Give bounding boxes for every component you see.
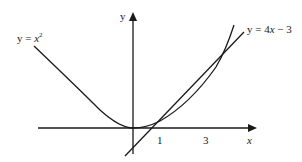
line-label-suffix: − 3 [275,23,292,35]
parabola-label-exponent: 2 [39,31,43,39]
graph-figure: y x 1 3 y = x2 y = 4x − 3 [0,0,302,162]
line-label: y = 4x − 3 [247,24,292,35]
x-tick-3-text: 3 [203,134,209,146]
x-tick-3: 3 [203,135,209,146]
x-axis-label-text: x [247,134,252,146]
line-label-prefix: y = 4 [247,23,270,35]
parabola-label-prefix: y = [17,32,34,44]
x-tick-1: 1 [157,135,163,146]
x-axis-label: x [247,135,252,146]
y-axis-label-text: y [120,10,126,22]
parabola-label: y = x2 [17,33,43,44]
y-axis-label: y [120,11,126,22]
x-tick-1-text: 1 [157,134,163,146]
x-axis-arrow-icon [248,124,257,132]
parabola-curve [34,25,234,128]
y-axis-arrow-icon [129,12,137,21]
tangent-line [125,32,244,156]
